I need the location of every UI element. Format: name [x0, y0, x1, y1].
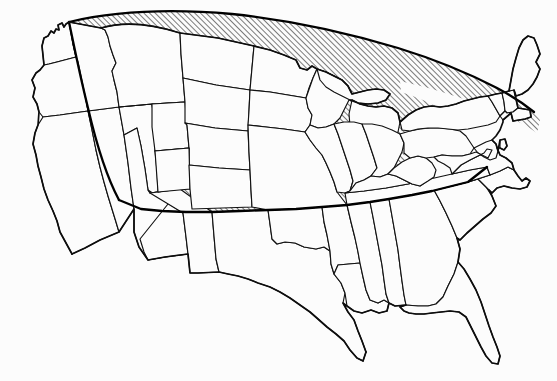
us-map-figure: Outline map of the contiguous United Sta…	[0, 0, 557, 381]
us-map-svg	[0, 0, 557, 381]
state-colorado-shape	[155, 148, 190, 192]
state-kansas	[189, 165, 252, 209]
state-nebraska	[185, 123, 250, 170]
state-wyoming-shape	[152, 102, 189, 151]
